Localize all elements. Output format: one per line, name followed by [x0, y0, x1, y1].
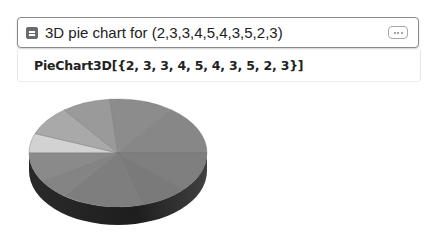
more-options-button[interactable] [388, 26, 408, 39]
query-text[interactable]: 3D pie chart for (2,3,3,4,5,4,3,5,2,3) [45, 24, 283, 41]
ellipsis-icon [394, 32, 396, 34]
input-square-icon [26, 27, 38, 39]
query-input-bar[interactable]: 3D pie chart for (2,3,3,4,5,4,3,5,2,3) [17, 17, 419, 48]
output-code: PieChart3D[{2, 3, 3, 4, 5, 4, 3, 5, 2, 3… [34, 58, 303, 73]
output-cell: PieChart3D[{2, 3, 3, 4, 5, 4, 3, 5, 2, 3… [17, 50, 421, 82]
pie-chart-3d [0, 90, 240, 238]
